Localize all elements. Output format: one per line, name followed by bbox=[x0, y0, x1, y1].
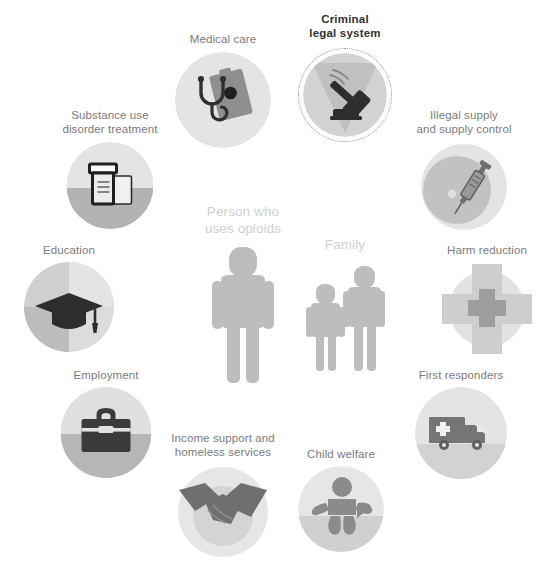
icon-disc-illegal-supply-and-supply-control[interactable] bbox=[419, 142, 509, 232]
node-label-substance-use-disorder-treatment: Substance use disorder treatment bbox=[62, 108, 157, 136]
node-label-criminal-legal-system: Criminal legal system bbox=[309, 12, 380, 40]
family-figures-icon bbox=[305, 258, 385, 374]
icon-disc-employment[interactable] bbox=[61, 387, 152, 478]
pill-bottle-icon bbox=[67, 142, 154, 229]
icon-disc-first-responders[interactable] bbox=[415, 387, 507, 479]
node-label-medical-care: Medical care bbox=[190, 32, 256, 46]
graduation-cap-icon bbox=[24, 262, 114, 352]
briefcase-icon bbox=[61, 387, 152, 478]
syringe-icon bbox=[419, 142, 509, 232]
ambulance-icon bbox=[415, 387, 507, 479]
diagram-canvas: Medical care Criminal legal system bbox=[0, 0, 558, 573]
baby-icon bbox=[298, 466, 384, 552]
person-figure-icon bbox=[207, 247, 279, 385]
center-label-person-who-uses-opioids: Person who uses opioids bbox=[205, 203, 281, 237]
icon-disc-income-support-and-homeless-services[interactable] bbox=[175, 464, 271, 560]
icon-disc-education[interactable] bbox=[24, 262, 114, 352]
icon-disc-criminal-legal-system[interactable] bbox=[303, 53, 387, 137]
icon-disc-substance-use-disorder-treatment[interactable] bbox=[67, 142, 154, 229]
node-label-first-responders: First responders bbox=[419, 368, 504, 382]
center-label-family: Family bbox=[325, 236, 365, 253]
icon-disc-medical-care[interactable] bbox=[175, 52, 271, 148]
handshake-icon bbox=[175, 464, 271, 560]
icon-disc-harm-reduction[interactable] bbox=[440, 262, 534, 356]
medical-cross-icon bbox=[440, 262, 534, 356]
node-label-harm-reduction: Harm reduction bbox=[447, 243, 527, 257]
node-label-child-welfare: Child welfare bbox=[307, 447, 375, 461]
node-label-employment: Employment bbox=[74, 368, 139, 382]
icon-disc-child-welfare[interactable] bbox=[298, 466, 384, 552]
node-label-income-support-and-homeless-services: Income support and homeless services bbox=[171, 431, 274, 459]
node-label-illegal-supply-and-supply-control: Illegal supply and supply control bbox=[416, 108, 511, 136]
node-label-education: Education bbox=[43, 243, 95, 257]
stethoscope-clipboard-icon bbox=[175, 52, 271, 148]
gavel-icon bbox=[303, 53, 387, 137]
